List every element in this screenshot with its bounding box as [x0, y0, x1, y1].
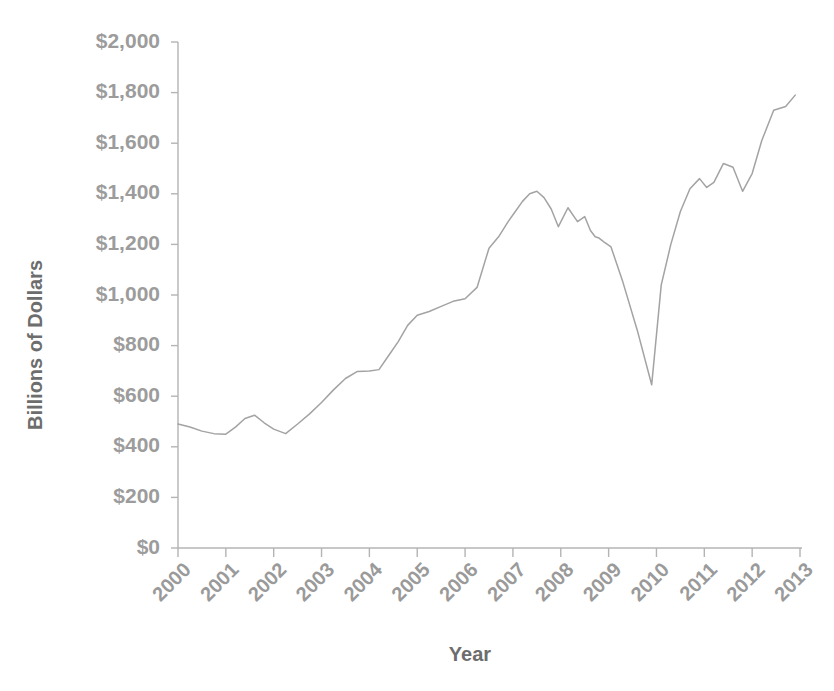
y-axis-tick-marks: [171, 42, 178, 548]
x-tick-label: 2013: [770, 558, 817, 605]
y-tick-label: $1,800: [96, 79, 160, 102]
x-tick-label: 2000: [148, 558, 195, 605]
y-tick-label: $1,400: [96, 180, 160, 203]
y-tick-label: $600: [113, 383, 160, 406]
x-tick-label: 2010: [626, 558, 673, 605]
y-tick-label: $400: [113, 433, 160, 456]
x-tick-label: 2008: [531, 558, 578, 605]
y-tick-label: $2,000: [96, 29, 160, 52]
x-tick-label: 2006: [435, 558, 482, 605]
y-tick-label: $200: [113, 484, 160, 507]
x-tick-label: 2005: [387, 558, 434, 605]
x-tick-label: 2001: [196, 558, 243, 605]
y-axis-title: Billions of Dollars: [24, 260, 46, 430]
y-tick-label: $800: [113, 332, 160, 355]
x-tick-label: 2004: [339, 558, 387, 606]
x-axis-title: Year: [449, 643, 491, 665]
x-tick-label: 2007: [483, 558, 530, 605]
x-tick-label: 2009: [578, 558, 625, 605]
y-tick-label: $1,000: [96, 282, 160, 305]
y-tick-label: $1,600: [96, 130, 160, 153]
x-tick-label: 2012: [722, 558, 769, 605]
chart-canvas: $0$200$400$600$800$1,000$1,200$1,400$1,6…: [0, 0, 834, 691]
y-axis-tick-labels: $0$200$400$600$800$1,000$1,200$1,400$1,6…: [96, 29, 160, 558]
x-tick-label: 2011: [675, 558, 721, 604]
x-axis-tick-labels: 2000200120022003200420052006200720082009…: [148, 558, 817, 606]
data-series-line: [178, 95, 795, 434]
line-chart: $0$200$400$600$800$1,000$1,200$1,400$1,6…: [0, 0, 834, 691]
x-tick-label: 2003: [291, 558, 338, 605]
x-axis-tick-marks: [178, 548, 800, 557]
y-tick-label: $0: [137, 535, 160, 558]
y-tick-label: $1,200: [96, 231, 160, 254]
x-tick-label: 2002: [243, 558, 290, 605]
